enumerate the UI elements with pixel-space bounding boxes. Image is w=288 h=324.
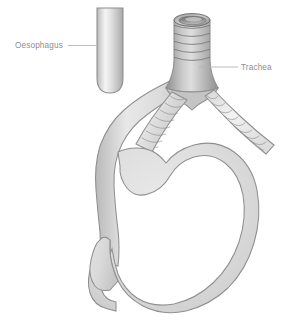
trachea <box>166 14 218 92</box>
leader-lines <box>68 46 238 68</box>
oesophagus-stub <box>97 8 123 93</box>
anatomy-illustration: Oesophagus Trachea <box>0 0 288 324</box>
anatomy-figure: Oesophagus Trachea <box>0 0 288 324</box>
label-oesophagus: Oesophagus <box>15 41 63 50</box>
trachea-lumen-highlight <box>185 17 202 21</box>
label-trachea: Trachea <box>241 63 272 72</box>
